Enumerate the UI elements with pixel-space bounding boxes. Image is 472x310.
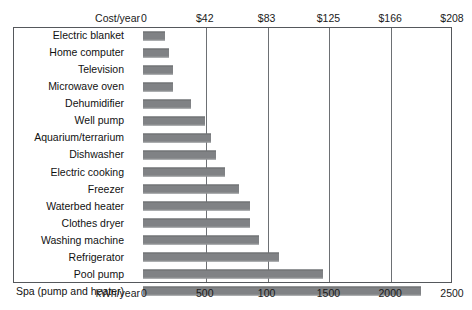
bar-area: [130, 129, 452, 146]
chart-row: Television: [13, 61, 452, 78]
kwh-axis-tick-2: 100: [258, 287, 276, 299]
chart-rows: Electric blanketHome computerTelevisionM…: [13, 27, 452, 283]
bar-area: [130, 215, 452, 232]
kwh-axis-tick-1: 500: [196, 287, 214, 299]
kwh-axis-ticks: 0500100150020002500: [0, 287, 472, 301]
bar-area: [130, 27, 452, 44]
bar-area: [130, 95, 452, 112]
bar-area: [130, 146, 452, 163]
chart-row: Washing machine: [13, 232, 452, 249]
bar: [143, 82, 173, 91]
category-label: Clothes dryer: [13, 218, 130, 229]
cost-axis-tick-1: $42: [196, 12, 214, 24]
chart-row: Electric blanket: [13, 27, 452, 44]
cost-axis-tick-3: $125: [317, 12, 340, 24]
chart-row: Pool pump: [13, 266, 452, 283]
category-label: Dishwasher: [13, 149, 130, 160]
bar-area: [130, 61, 452, 78]
chart-row: Waterbed heater: [13, 198, 452, 215]
bar: [143, 270, 323, 279]
bar: [143, 48, 169, 57]
bar: [143, 99, 191, 108]
cost-axis-tick-5: $208: [440, 12, 463, 24]
chart-row: Freezer: [13, 181, 452, 198]
category-label: Electric cooking: [13, 167, 130, 178]
bar-area: [130, 44, 452, 61]
bar: [143, 236, 259, 245]
bar: [143, 133, 211, 142]
bar-area: [130, 266, 452, 283]
chart-row: Refrigerator: [13, 249, 452, 266]
bar-area: [130, 164, 452, 181]
energy-cost-bar-chart: Cost/year 0$42$83$125$166$208 Electric b…: [0, 0, 472, 310]
bar: [143, 202, 250, 211]
category-label: Dehumidifier: [13, 98, 130, 109]
bar: [143, 168, 225, 177]
chart-row: Aquarium/terrarium: [13, 129, 452, 146]
chart-row: Well pump: [13, 112, 452, 129]
bar-area: [130, 78, 452, 95]
bar: [143, 253, 279, 262]
bar: [143, 185, 239, 194]
chart-row: Dishwasher: [13, 146, 452, 163]
category-label: Electric blanket: [13, 30, 130, 41]
chart-row: Electric cooking: [13, 164, 452, 181]
category-label: Microwave oven: [13, 81, 130, 92]
bar: [143, 219, 250, 228]
category-label: Waterbed heater: [13, 201, 130, 212]
chart-row: Microwave oven: [13, 78, 452, 95]
bar: [143, 31, 165, 40]
category-label: Freezer: [13, 184, 130, 195]
bar: [143, 65, 173, 74]
category-label: Pool pump: [13, 269, 130, 280]
category-label: Refrigerator: [13, 252, 130, 263]
bar-area: [130, 198, 452, 215]
chart-row: Home computer: [13, 44, 452, 61]
kwh-axis-tick-0: 0: [141, 287, 147, 299]
bar-area: [130, 181, 452, 198]
chart-row: Dehumidifier: [13, 95, 452, 112]
kwh-axis-tick-4: 2000: [379, 287, 402, 299]
category-label: Home computer: [13, 47, 130, 58]
bar-area: [130, 112, 452, 129]
chart-row: Clothes dryer: [13, 215, 452, 232]
category-label: Well pump: [13, 115, 130, 126]
kwh-axis-tick-5: 2500: [440, 287, 463, 299]
cost-axis-ticks: 0$42$83$125$166$208: [0, 12, 472, 26]
bar-area: [130, 249, 452, 266]
category-label: Television: [13, 64, 130, 75]
cost-axis-tick-0: 0: [141, 12, 147, 24]
category-label: Aquarium/terrarium: [13, 132, 130, 143]
bar: [143, 150, 216, 159]
cost-axis-tick-2: $83: [258, 12, 276, 24]
bar-area: [130, 232, 452, 249]
cost-axis-tick-4: $166: [379, 12, 402, 24]
category-label: Washing machine: [13, 235, 130, 246]
bar: [143, 116, 205, 125]
kwh-axis-tick-3: 1500: [317, 287, 340, 299]
